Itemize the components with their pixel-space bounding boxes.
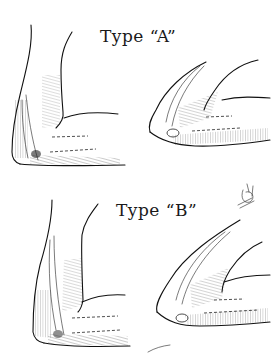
- type-a-flexed-elbow: [149, 60, 270, 146]
- artist-signature-mark: [238, 184, 254, 208]
- type-b-extended-elbow: [33, 200, 130, 347]
- line-art-drawing: [0, 0, 279, 355]
- type-a-extended-elbow: [12, 25, 125, 166]
- illustration-canvas: Type “A” Type “B”: [0, 0, 279, 355]
- type-b-flexed-elbow: [157, 220, 270, 326]
- sketch-stroke: [148, 345, 170, 352]
